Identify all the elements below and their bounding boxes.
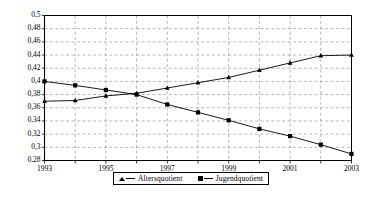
data-point bbox=[349, 152, 353, 156]
legend-line-swatch bbox=[126, 178, 135, 179]
legend-item-jugendquotient: Jugendquotient bbox=[198, 174, 263, 183]
y-axis-tick-label: 0,4 bbox=[31, 77, 40, 85]
data-point bbox=[227, 118, 231, 122]
y-axis-tick-label: 0,28 bbox=[27, 156, 40, 164]
y-axis-tick-label: 0,3 bbox=[31, 143, 40, 151]
x-axis-tick-label: 2001 bbox=[275, 165, 305, 173]
x-axis-tick-label: 2003 bbox=[337, 165, 367, 173]
data-point bbox=[42, 79, 46, 83]
y-axis-tick-label: 0,42 bbox=[27, 64, 40, 72]
y-axis-tick-label: 0,32 bbox=[27, 130, 40, 138]
legend-label: Altersquotient bbox=[138, 174, 182, 183]
data-point bbox=[165, 102, 169, 106]
y-axis-tick-label: 0,46 bbox=[27, 37, 40, 45]
square-marker-icon-glyph bbox=[198, 176, 203, 181]
y-axis-tick-label: 0,5 bbox=[31, 11, 40, 19]
data-point bbox=[196, 110, 200, 114]
triangle-marker-icon bbox=[119, 177, 135, 181]
triangle-marker-icon-glyph bbox=[119, 177, 125, 181]
y-axis-tick-label: 0,44 bbox=[27, 51, 40, 59]
legend-label: Jugendquotient bbox=[216, 174, 263, 183]
axis-lines bbox=[42, 16, 352, 161]
data-point bbox=[288, 134, 292, 138]
line-chart: 0,280,30,320,340,360,380,40,420,440,460,… bbox=[0, 0, 370, 199]
y-axis-tick-label: 0,34 bbox=[27, 116, 40, 124]
data-point bbox=[135, 92, 139, 96]
data-point bbox=[104, 88, 108, 92]
y-axis-tick-label: 0,38 bbox=[27, 90, 40, 98]
y-axis-tick-label: 0,36 bbox=[27, 103, 40, 111]
data-point bbox=[349, 52, 354, 56]
x-axis-tick-label: 1993 bbox=[30, 165, 60, 173]
chart-legend: AltersquotientJugendquotient bbox=[113, 172, 269, 185]
data-point bbox=[319, 143, 323, 147]
legend-item-altersquotient: Altersquotient bbox=[119, 174, 182, 183]
square-marker-icon bbox=[198, 176, 213, 181]
data-point bbox=[257, 127, 261, 131]
legend-line-swatch bbox=[204, 178, 213, 179]
y-axis-tick-label: 0,48 bbox=[27, 24, 40, 32]
data-point bbox=[73, 83, 77, 87]
